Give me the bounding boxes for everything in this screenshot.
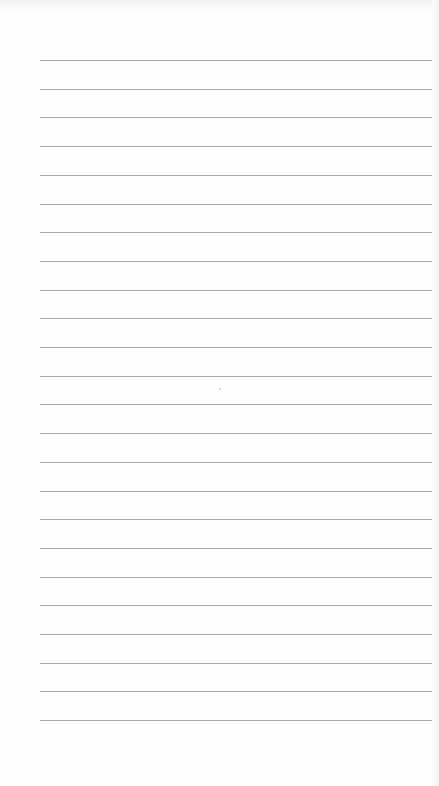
- ruled-line: [40, 691, 432, 692]
- paper-speck: [219, 388, 221, 390]
- ruled-line: [40, 577, 432, 578]
- ruled-line: [40, 318, 432, 319]
- ruled-line: [40, 605, 432, 606]
- ruled-line: [40, 261, 432, 262]
- ruled-line: [40, 663, 432, 664]
- ruled-line: [40, 462, 432, 463]
- right-edge-shading: [432, 0, 439, 786]
- ruled-line: [40, 290, 432, 291]
- ruled-line: [40, 347, 432, 348]
- ruled-line: [40, 376, 432, 377]
- ruled-line: [40, 404, 432, 405]
- ruled-line: [40, 117, 432, 118]
- ruled-line: [40, 204, 432, 205]
- top-shading: [0, 0, 439, 14]
- ruled-line: [40, 60, 432, 61]
- ruled-line: [40, 519, 432, 520]
- ruled-line: [40, 89, 432, 90]
- ruled-line: [40, 720, 432, 721]
- ruled-line: [40, 548, 432, 549]
- ruled-line: [40, 232, 432, 233]
- ruled-line: [40, 433, 432, 434]
- ruled-line: [40, 634, 432, 635]
- ruled-paper-page: [0, 0, 439, 786]
- ruled-line: [40, 146, 432, 147]
- ruled-line: [40, 175, 432, 176]
- ruled-line: [40, 491, 432, 492]
